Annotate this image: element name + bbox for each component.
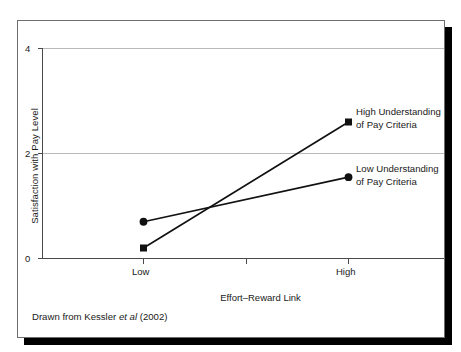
series-line-low-understanding: [144, 177, 349, 222]
source-caption-italic: et al: [119, 311, 137, 322]
y-axis-title-wrap: Satisfaction with Pay Level: [26, 81, 42, 251]
x-tick-label-low: Low: [132, 267, 149, 277]
source-caption: Drawn from Kessler et al (2002): [32, 311, 167, 322]
series-label-high-understanding: High Understanding of Pay Criteria: [356, 106, 441, 131]
x-axis-title-wrap: Effort–Reward Link: [18, 292, 461, 303]
figure-root: 4 2 0 Low High Satisfaction with Pay Lev…: [0, 0, 461, 352]
series-label-high-understanding-line1: High Understanding: [356, 106, 441, 119]
marker-high-understanding-low: [140, 245, 147, 252]
y-axis-title: Satisfaction with Pay Level: [29, 108, 40, 224]
x-tick-label-high: High: [336, 267, 356, 277]
source-caption-suffix: (2002): [137, 311, 167, 322]
marker-low-understanding-high: [345, 173, 353, 181]
y-tick-label-0: 0: [25, 254, 30, 264]
series-label-low-understanding: Low Understanding of Pay Criteria: [356, 163, 439, 188]
plot-area: 4 2 0 Low High Satisfaction with Pay Lev…: [18, 21, 444, 337]
series-label-low-understanding-line2: of Pay Criteria: [356, 176, 439, 189]
series-label-high-understanding-line2: of Pay Criteria: [356, 119, 441, 132]
marker-high-understanding-high: [345, 119, 352, 126]
x-axis-title: Effort–Reward Link: [220, 292, 301, 303]
marker-low-understanding-low: [140, 218, 148, 226]
y-tick-label-4: 4: [25, 44, 30, 54]
series-label-low-understanding-line1: Low Understanding: [356, 163, 439, 176]
source-caption-prefix: Drawn from Kessler: [32, 311, 119, 322]
figure-frame: 4 2 0 Low High Satisfaction with Pay Lev…: [17, 20, 445, 338]
series-line-high-understanding: [144, 122, 349, 248]
